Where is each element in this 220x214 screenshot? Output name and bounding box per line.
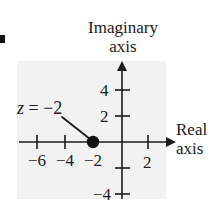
y-tick-label-pos2: 2	[100, 108, 109, 125]
annotation-leader-line	[62, 117, 90, 139]
point-annotation-value: −2	[43, 98, 62, 118]
x-tick-label-neg2: −2	[84, 152, 102, 169]
complex-plane-figure: Imaginary axis Real axis	[0, 0, 220, 214]
point-annotation-label: z = −2	[17, 98, 62, 118]
data-point-marker	[87, 136, 99, 148]
y-tick-label-pos4: 4	[100, 82, 109, 99]
imaginary-axis-line	[117, 61, 127, 199]
point-annotation-variable: z	[17, 98, 24, 118]
x-tick-label-neg4: −4	[56, 152, 74, 169]
point-annotation-equals: =	[29, 98, 39, 118]
y-tick-label-neg4: −4	[93, 186, 111, 203]
x-tick-label-neg6: −6	[28, 152, 46, 169]
x-tick-label-pos2: 2	[143, 154, 152, 171]
